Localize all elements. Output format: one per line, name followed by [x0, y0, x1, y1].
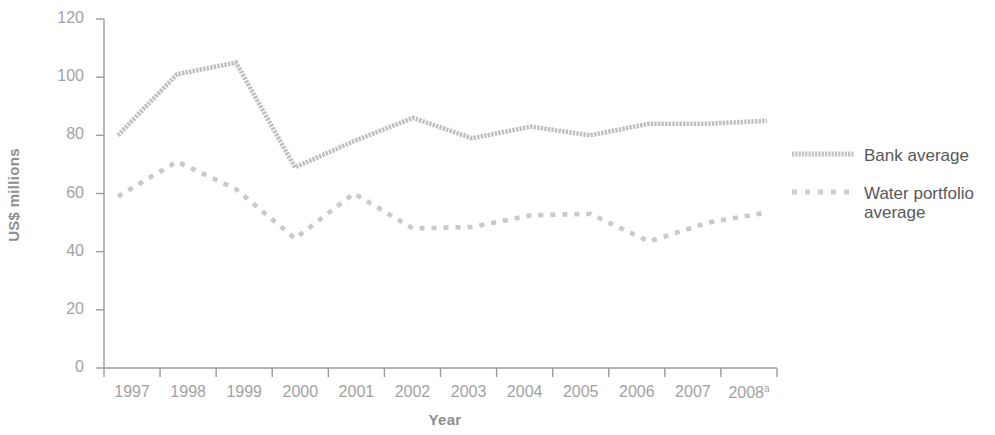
- data-series-group: [118, 63, 767, 242]
- y-axis-tick-label: 20: [38, 300, 84, 318]
- legend-label-water-portfolio-average: Water portfolio average: [864, 184, 974, 222]
- y-axis-tick-label: 100: [38, 67, 84, 85]
- x-axis-tick-label: 2008a: [720, 383, 778, 402]
- x-axis-tick-label: 2003: [440, 383, 498, 401]
- series-line-bank-average: [118, 63, 767, 168]
- x-axis-ticks: [104, 368, 777, 377]
- y-axis-tick-label: 0: [38, 358, 84, 376]
- x-axis-tick-label: 2006: [608, 383, 666, 401]
- y-axis-tick-label: 120: [38, 9, 84, 27]
- legend-item-water-portfolio-average: Water portfolio average: [792, 184, 992, 222]
- x-axis-tick-label: 2004: [496, 383, 554, 401]
- legend-label-bank-average: Bank average: [864, 146, 969, 165]
- x-axis-tick-label: 1998: [159, 383, 217, 401]
- y-axis-ticks: [96, 19, 104, 368]
- dotted-line-key-icon: [792, 150, 854, 166]
- x-axis-tick-label: 1999: [215, 383, 273, 401]
- y-axis-title: US$ millions: [6, 110, 21, 280]
- series-line-water-portfolio-average: [118, 162, 767, 242]
- x-axis-tick-label: 2005: [552, 383, 610, 401]
- x-axis-tick-label: 2001: [327, 383, 385, 401]
- y-axis-tick-label: 40: [38, 242, 84, 260]
- line-chart-figure: 020406080100120 199719981999200020012002…: [0, 0, 995, 435]
- x-axis-title: Year: [380, 411, 510, 428]
- chart-legend: Bank average Water portfolio average: [792, 146, 992, 240]
- y-axis-tick-label: 80: [38, 125, 84, 143]
- x-axis-tick-label: 1997: [103, 383, 161, 401]
- x-axis-tick-label: 2007: [664, 383, 722, 401]
- x-axis-tick-label: 2002: [383, 383, 441, 401]
- x-axis-tick-label: 2000: [271, 383, 329, 401]
- legend-item-bank-average: Bank average: [792, 146, 992, 166]
- x-axis-tick-footnote: a: [764, 383, 770, 394]
- dashed-line-key-icon: [792, 188, 854, 204]
- y-axis-tick-label: 60: [38, 184, 84, 202]
- axis-lines: [104, 19, 777, 368]
